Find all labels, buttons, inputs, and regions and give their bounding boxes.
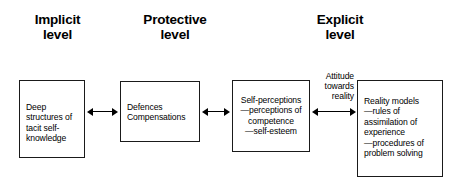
diagram-canvas: Implicit level Protective level Explicit…: [0, 0, 462, 196]
heading-protective-level: Protective level: [120, 12, 230, 42]
box-defences: Defences Compensations: [120, 81, 200, 142]
arrow-protective-explicit: [202, 107, 230, 116]
arrow-head-right-icon: [112, 108, 118, 116]
arrow-implicit-protective: [87, 107, 118, 116]
box-deep-structures-text: Deep structures of tacit self- knowledge: [20, 102, 84, 144]
box-reality-models-text: Reality models —rules of assimilation of…: [358, 96, 442, 158]
arrow-shaft: [92, 111, 113, 112]
box-defences-text: Defences Compensations: [121, 102, 199, 123]
box-self-perceptions: Self-perceptions —perceptions of compete…: [232, 80, 310, 152]
connector-label-attitude-towards-reality: Attitude towards reality: [300, 71, 354, 102]
heading-explicit-level: Explicit level: [288, 12, 392, 42]
box-reality-models: Reality models —rules of assimilation of…: [357, 80, 443, 177]
arrow-selfperceptions-realitymodels: [312, 107, 356, 116]
arrow-shaft: [207, 111, 225, 112]
arrow-shaft: [317, 111, 351, 112]
arrow-head-right-icon: [350, 108, 356, 116]
heading-implicit-level: Implicit level: [10, 12, 105, 42]
arrow-head-right-icon: [224, 108, 230, 116]
box-self-perceptions-text: Self-perceptions —perceptions of compete…: [233, 95, 309, 137]
box-deep-structures: Deep structures of tacit self- knowledge: [19, 80, 85, 158]
